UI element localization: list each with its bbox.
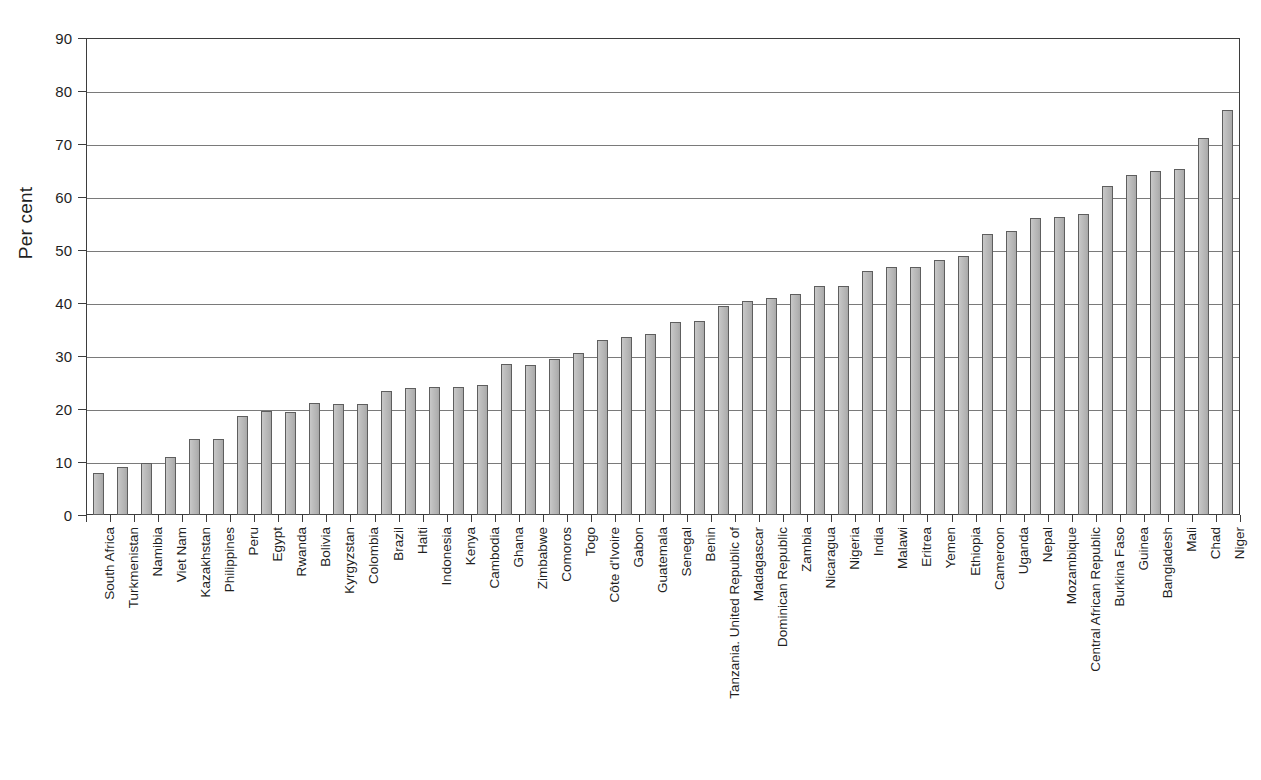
x-axis-tick-mark <box>519 515 520 522</box>
x-axis-tick-label: Ethiopia <box>969 527 983 576</box>
x-axis-tick-mark <box>110 515 111 522</box>
x-axis-tick-mark <box>735 515 736 522</box>
bar <box>670 322 681 515</box>
bar <box>790 294 801 515</box>
x-axis-tick-mark <box>230 515 231 522</box>
x-axis-tick-mark <box>206 515 207 522</box>
x-axis-tick-mark <box>254 515 255 522</box>
bar <box>141 463 152 515</box>
y-axis-tick-label: 20 <box>55 401 72 418</box>
bar <box>982 234 993 515</box>
x-axis-tick-label: Brazil <box>392 527 406 561</box>
x-axis-tick-mark <box>1144 515 1145 522</box>
x-axis-tick-label: Guatemala <box>656 527 670 593</box>
x-axis-tick-mark <box>86 515 87 522</box>
x-axis-tick-mark <box>952 515 953 522</box>
y-axis-ticks: 0102030405060708090 <box>0 0 86 560</box>
y-axis-tick-label: 30 <box>55 348 72 365</box>
x-axis-ticks <box>86 515 1240 524</box>
x-axis-tick-label: Gabon <box>632 527 646 568</box>
x-axis-tick-mark <box>687 515 688 522</box>
x-axis-tick-mark <box>399 515 400 522</box>
bar <box>934 260 945 515</box>
bar <box>1222 110 1233 515</box>
x-axis-tick-mark <box>711 515 712 522</box>
x-axis-tick-label: Uganda <box>1017 527 1031 574</box>
y-axis-tick-mark <box>78 515 86 516</box>
x-axis-tick-label: Côte d'Ivoire <box>608 527 622 602</box>
bar <box>742 301 753 515</box>
y-axis-tick-mark <box>78 250 86 251</box>
x-axis-tick-label: India <box>872 527 886 556</box>
x-axis-tick-label: Nigeria <box>848 527 862 570</box>
bar <box>333 404 344 515</box>
y-axis-tick-mark <box>78 462 86 463</box>
y-axis-tick-mark <box>78 409 86 410</box>
bars-layer <box>86 38 1240 515</box>
x-axis-tick-label: Viet Nam <box>175 527 189 582</box>
bar-chart-figure: Per cent 0102030405060708090 South Afric… <box>0 0 1261 780</box>
x-axis-tick-label: Togo <box>584 527 598 556</box>
x-axis-tick-mark <box>831 515 832 522</box>
x-axis-tick-mark <box>447 515 448 522</box>
bar <box>838 286 849 515</box>
x-axis-tick-label: Tanzania. United Republic of <box>728 527 742 699</box>
bar <box>1078 214 1089 515</box>
x-axis-tick-label: Zambia <box>800 527 814 572</box>
bar <box>117 467 128 515</box>
bar <box>862 271 873 515</box>
x-axis-tick-label: Colombia <box>367 527 381 584</box>
bar <box>1126 175 1137 515</box>
bar <box>213 439 224 515</box>
bar <box>1198 138 1209 515</box>
y-axis-tick-label: 0 <box>64 507 72 524</box>
x-axis-tick-label: Bolivia <box>319 527 333 567</box>
y-axis-tick-mark <box>78 144 86 145</box>
y-axis-tick-label: 10 <box>55 454 72 471</box>
x-axis-tick-mark <box>879 515 880 522</box>
bar <box>525 365 536 515</box>
x-axis-tick-label: Philippines <box>223 527 237 592</box>
bar <box>958 256 969 515</box>
bar <box>309 403 320 515</box>
x-axis-tick-mark <box>1240 515 1241 522</box>
bar <box>1150 171 1161 516</box>
x-axis-tick-mark <box>1048 515 1049 522</box>
bar <box>718 306 729 515</box>
bar <box>1102 186 1113 515</box>
x-axis-tick-label: Yemen <box>944 527 958 569</box>
x-axis-tick-mark <box>663 515 664 522</box>
x-axis-tick-mark <box>927 515 928 522</box>
bar <box>405 388 416 515</box>
x-axis-tick-label: Mozambique <box>1065 527 1079 604</box>
x-axis-tick-mark <box>591 515 592 522</box>
x-axis-tick-label: Ghana <box>512 527 526 568</box>
bar <box>381 391 392 515</box>
bar <box>429 387 440 515</box>
y-axis-tick-label: 50 <box>55 242 72 259</box>
bar <box>501 364 512 515</box>
x-axis-tick-mark <box>783 515 784 522</box>
x-axis-tick-label: Namibia <box>151 527 165 577</box>
x-axis-tick-mark <box>423 515 424 522</box>
y-axis-tick-label: 70 <box>55 136 72 153</box>
x-axis-tick-mark <box>976 515 977 522</box>
x-axis-tick-label: Cameroon <box>993 527 1007 590</box>
x-axis-tick-mark <box>567 515 568 522</box>
x-axis-tick-label: Central African Republic <box>1089 527 1103 672</box>
bar <box>93 473 104 515</box>
x-axis-tick-label: Kenya <box>464 527 478 565</box>
x-axis-tick-label: Peru <box>247 527 261 556</box>
bar <box>814 286 825 515</box>
x-axis-tick-mark <box>1096 515 1097 522</box>
x-axis-tick-mark <box>855 515 856 522</box>
x-axis-tick-mark <box>158 515 159 522</box>
y-axis-tick-mark <box>78 303 86 304</box>
x-axis-tick-label: Indonesia <box>440 527 454 586</box>
x-axis-tick-mark <box>1024 515 1025 522</box>
x-axis-tick-label: Benin <box>704 527 718 562</box>
x-axis-tick-mark <box>278 515 279 522</box>
bar <box>573 353 584 515</box>
bar <box>285 412 296 515</box>
x-axis-tick-mark <box>495 515 496 522</box>
